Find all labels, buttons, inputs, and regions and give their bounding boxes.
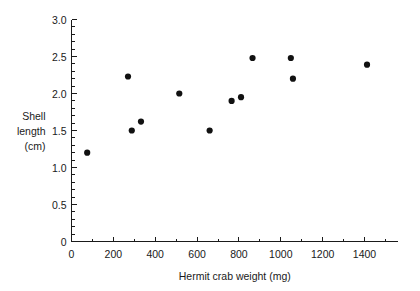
data-point [176,90,182,96]
x-tick-label: 200 [105,248,123,260]
y-axis-tick-labels: 00.51.01.52.02.53.0 [52,14,67,248]
data-point [125,73,131,79]
x-tick-label: 400 [146,248,164,260]
axes [72,20,399,242]
y-axis-title-line: Shell [22,110,45,122]
y-axis-title-line: length [17,125,46,137]
data-point [249,55,255,61]
y-axis-title: Shelllength(cm) [17,110,46,152]
chart-screenshot: 0200400600800100012001400 00.51.01.52.02… [0,0,420,291]
data-point [207,127,213,133]
scatter-plot: 0200400600800100012001400 00.51.01.52.02… [0,0,420,291]
y-tick-label: 1.0 [52,162,67,174]
x-tick-label: 1400 [353,248,377,260]
data-point [288,55,294,61]
y-tick-label: 0 [61,236,67,248]
data-point [129,127,135,133]
data-point [229,98,235,104]
data-point [84,150,90,156]
data-point [238,94,244,100]
x-tick-label: 1000 [269,248,293,260]
y-tick-label: 3.0 [52,14,67,26]
x-tick-label: 600 [188,248,206,260]
x-tick-label: 0 [69,248,75,260]
x-tick-label: 1200 [311,248,335,260]
y-tick-label: 1.5 [52,125,67,137]
x-axis-tick-labels: 0200400600800100012001400 [69,248,377,260]
x-axis-title: Hermit crab weight (mg) [179,270,291,282]
y-axis-title-line: (cm) [25,140,46,152]
data-point [138,119,144,125]
y-tick-label: 2.0 [52,88,67,100]
tick-marks [72,20,386,242]
data-point [290,76,296,82]
y-tick-label: 2.5 [52,51,67,63]
y-tick-label: 0.5 [52,199,67,211]
x-tick-label: 800 [230,248,248,260]
data-points [84,55,370,156]
data-point [364,62,370,68]
